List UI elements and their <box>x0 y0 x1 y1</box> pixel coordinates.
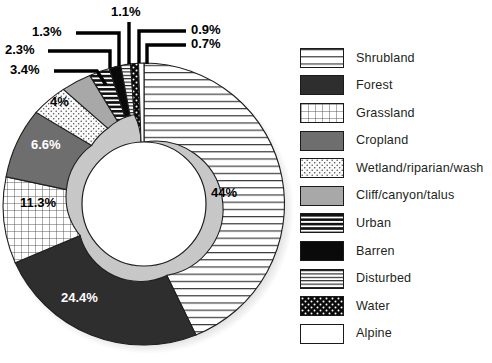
legend-item-cliff-canyon-talus[interactable]: Cliff/canyon/talus <box>300 182 492 210</box>
legend-label-grassland: Grassland <box>356 107 415 120</box>
legend-swatch-disturbed-icon <box>300 269 344 289</box>
legend-swatch-cliff-canyon-talus-icon <box>300 186 344 206</box>
legend-item-barren[interactable]: Barren <box>300 237 492 265</box>
legend-swatch-water-icon <box>300 296 344 316</box>
legend-item-shrubland[interactable]: Shrubland <box>300 44 492 72</box>
legend-item-disturbed[interactable]: Disturbed <box>300 265 492 293</box>
callout-label-3-4: 3.4% <box>10 63 40 76</box>
legend-label-shrubland: Shrubland <box>356 52 415 65</box>
legend-swatch-forest-icon <box>300 75 344 95</box>
legend-item-water[interactable]: Water <box>300 292 492 320</box>
callout-label-0-7: 0.7% <box>191 37 221 50</box>
value-label-shrubland: 44% <box>211 186 237 199</box>
legend-label-alpine: Alpine <box>356 327 392 340</box>
legend-swatch-barren-icon <box>300 241 344 261</box>
value-label-wetland: 4% <box>50 95 69 108</box>
legend-swatch-cropland-icon <box>300 131 344 151</box>
callout-label-0-9: 0.9% <box>191 23 221 36</box>
callout-label-1-3: 1.3% <box>32 25 62 38</box>
value-label-cropland: 6.6% <box>31 138 61 151</box>
legend-item-urban[interactable]: Urban <box>300 210 492 238</box>
legend-swatch-urban-icon <box>300 213 344 233</box>
donut-hole <box>82 142 206 266</box>
legend-label-forest: Forest <box>356 79 393 92</box>
legend-label-barren: Barren <box>356 245 395 258</box>
legend-label-disturbed: Disturbed <box>356 272 411 285</box>
legend-swatch-shrubland-icon <box>300 48 344 68</box>
leader-line-0-7 <box>147 45 186 64</box>
legend-item-wetland-riparian-wash[interactable]: Wetland/riparian/wash <box>300 154 492 182</box>
legend-label-urban: Urban <box>356 217 391 230</box>
legend-item-alpine[interactable]: Alpine <box>300 320 492 348</box>
legend-swatch-wetland-riparian-wash-icon <box>300 158 344 178</box>
legend-item-cropland[interactable]: Cropland <box>300 127 492 155</box>
value-label-grassland: 11.3% <box>20 196 56 209</box>
callout-label-1-1: 1.1% <box>111 5 141 18</box>
callout-label-2-3: 2.3% <box>5 43 35 56</box>
legend-item-forest[interactable]: Forest <box>300 72 492 100</box>
chart-legend: Shrubland Forest Grassland Cropland Wetl <box>300 44 492 348</box>
legend-label-wetland-riparian-wash: Wetland/riparian/wash <box>356 162 484 175</box>
value-label-forest: 24.4% <box>61 291 98 304</box>
leader-line-2-3 <box>48 51 110 68</box>
legend-label-water: Water <box>356 300 390 313</box>
legend-label-cliff-canyon-talus: Cliff/canyon/talus <box>356 189 454 202</box>
legend-swatch-grassland-icon <box>300 103 344 123</box>
land-cover-donut-chart-figure: 44% 24.4% 11.3% 6.6% 4% 3.4% 2.3% 1.3% 1… <box>0 0 492 363</box>
legend-label-cropland: Cropland <box>356 134 408 147</box>
legend-item-grassland[interactable]: Grassland <box>300 99 492 127</box>
legend-swatch-alpine-icon <box>300 324 344 344</box>
